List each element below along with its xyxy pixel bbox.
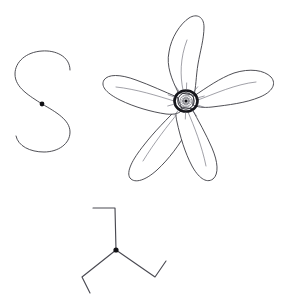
figure-canvas bbox=[0, 0, 287, 302]
triskelion-node-dot bbox=[113, 247, 118, 252]
s-curve-node-dot bbox=[40, 102, 45, 107]
flower-center-node-dot bbox=[185, 100, 188, 103]
drawing-surface bbox=[0, 0, 287, 302]
